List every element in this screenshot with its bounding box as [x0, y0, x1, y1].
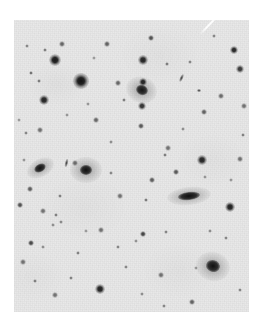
sky-image-plate — [14, 20, 249, 312]
image-page — [0, 0, 264, 328]
photographic-grain — [14, 20, 249, 312]
